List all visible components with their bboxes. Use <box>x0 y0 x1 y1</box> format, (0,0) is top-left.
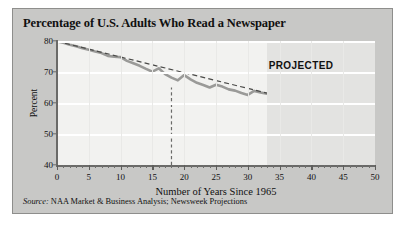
x-tick-mark-major <box>184 165 185 170</box>
x-tick-mark-major <box>248 165 249 170</box>
gridline-vertical <box>216 41 217 165</box>
source-prefix: Source: <box>23 197 49 206</box>
x-tick-mark-major <box>343 165 344 170</box>
x-tick-mark-minor <box>356 165 357 168</box>
y-tick-mark <box>53 40 57 41</box>
x-tick-mark-minor <box>292 165 293 168</box>
x-tick-label: 5 <box>87 172 92 182</box>
x-tick-mark-minor <box>286 165 287 168</box>
source-note: Source: NAA Market & Business Analysis; … <box>23 197 247 206</box>
chart-title: Percentage of U.S. Adults Who Read a New… <box>23 16 286 31</box>
x-tick-mark-minor <box>140 165 141 168</box>
x-tick-label: 0 <box>55 172 60 182</box>
plot-area: PROJECTED 4050607080 0510152025303540455… <box>57 41 375 165</box>
x-tick-mark-minor <box>146 165 147 168</box>
x-tick-mark-minor <box>235 165 236 168</box>
x-tick-mark-minor <box>127 165 128 168</box>
x-tick-mark-minor <box>369 165 370 168</box>
x-tick-mark-minor <box>229 165 230 168</box>
x-tick-mark-minor <box>191 165 192 168</box>
x-tick-mark-minor <box>63 165 64 168</box>
source-text: NAA Market & Business Analysis; Newsweek… <box>51 197 247 206</box>
x-tick-mark-minor <box>254 165 255 168</box>
x-tick-mark-major <box>216 165 217 170</box>
x-tick-mark-minor <box>222 165 223 168</box>
x-tick-mark-major <box>311 165 312 170</box>
x-tick-mark-minor <box>95 165 96 168</box>
x-tick-label: 10 <box>116 172 125 182</box>
y-tick-mark <box>53 102 57 103</box>
projected-label: PROJECTED <box>269 60 334 71</box>
x-axis-label: Number of Years Since 1965 <box>155 186 276 197</box>
x-tick-mark-minor <box>324 165 325 168</box>
y-tick-label: 60 <box>44 98 53 108</box>
x-tick-mark-minor <box>102 165 103 168</box>
x-tick-mark-minor <box>108 165 109 168</box>
x-tick-mark-minor <box>267 165 268 168</box>
x-tick-label: 25 <box>212 172 221 182</box>
x-tick-label: 20 <box>180 172 189 182</box>
x-tick-mark-minor <box>197 165 198 168</box>
x-tick-mark-minor <box>82 165 83 168</box>
x-tick-mark-minor <box>114 165 115 168</box>
x-tick-mark-minor <box>70 165 71 168</box>
x-tick-mark-minor <box>76 165 77 168</box>
x-tick-mark-minor <box>362 165 363 168</box>
x-tick-mark-minor <box>305 165 306 168</box>
chart-card: Percentage of U.S. Adults Who Read a New… <box>12 8 393 214</box>
x-tick-mark-minor <box>171 165 172 168</box>
gridline-vertical <box>121 41 122 165</box>
x-tick-label: 30 <box>243 172 252 182</box>
x-tick-mark-major <box>152 165 153 170</box>
y-tick-mark <box>53 133 57 134</box>
x-tick-mark-minor <box>330 165 331 168</box>
x-tick-mark-minor <box>178 165 179 168</box>
y-tick-mark <box>53 71 57 72</box>
y-tick-label: 50 <box>44 129 53 139</box>
x-tick-label: 15 <box>148 172 157 182</box>
x-tick-mark-major <box>280 165 281 170</box>
gridline-vertical <box>152 41 153 165</box>
x-tick-mark-major <box>375 165 376 170</box>
x-tick-mark-minor <box>133 165 134 168</box>
gridline-vertical <box>343 41 344 165</box>
x-tick-mark-major <box>121 165 122 170</box>
x-tick-mark-minor <box>159 165 160 168</box>
y-tick-label: 70 <box>44 67 53 77</box>
x-tick-mark-minor <box>318 165 319 168</box>
gridline-vertical <box>248 41 249 165</box>
x-tick-label: 50 <box>371 172 380 182</box>
x-tick-mark-minor <box>273 165 274 168</box>
x-tick-label: 35 <box>275 172 284 182</box>
x-tick-mark-minor <box>165 165 166 168</box>
x-tick-mark-minor <box>261 165 262 168</box>
x-tick-mark-minor <box>350 165 351 168</box>
plot-canvas: PROJECTED <box>57 41 375 165</box>
gridline-vertical <box>89 41 90 165</box>
x-tick-label: 40 <box>307 172 316 182</box>
x-tick-mark-major <box>89 165 90 170</box>
x-tick-mark-major <box>57 165 58 170</box>
x-tick-mark-minor <box>337 165 338 168</box>
x-tick-mark-minor <box>241 165 242 168</box>
x-tick-mark-minor <box>203 165 204 168</box>
y-tick-label: 80 <box>44 36 53 46</box>
x-tick-label: 45 <box>339 172 348 182</box>
x-tick-mark-minor <box>210 165 211 168</box>
gridline-vertical <box>184 41 185 165</box>
x-tick-mark-minor <box>299 165 300 168</box>
y-axis-label: Percent <box>29 89 39 118</box>
y-tick-label: 40 <box>44 160 53 170</box>
